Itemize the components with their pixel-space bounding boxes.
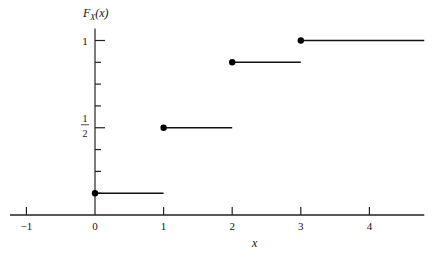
cdf-step-chart: −101234112: [0, 0, 435, 259]
step-point: [298, 37, 304, 43]
y-tick-label-half-num: 1: [83, 113, 88, 124]
x-tick-label: 3: [298, 220, 304, 232]
step-point: [92, 190, 98, 196]
x-tick-label: −1: [21, 220, 33, 232]
y-tick-label-1: 1: [82, 35, 88, 47]
y-tick-label-half-den: 2: [83, 128, 88, 139]
y-axis-label: FX(x): [83, 6, 109, 22]
x-axis-label: x: [252, 236, 257, 251]
step-point: [160, 125, 166, 131]
x-tick-label: 2: [229, 220, 235, 232]
step-point: [229, 59, 235, 65]
x-tick-label: 0: [92, 220, 98, 232]
x-tick-label: 1: [161, 220, 167, 232]
x-tick-label: 4: [367, 220, 373, 232]
